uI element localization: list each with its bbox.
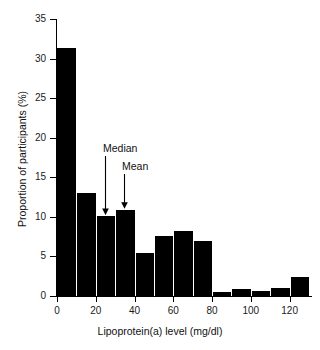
histogram-chart: Proportion of participants (%) 051015202…: [0, 0, 320, 350]
histogram-bar: [193, 241, 212, 296]
x-tick: [173, 297, 174, 302]
y-tick: 10: [50, 217, 56, 218]
y-axis-title: Proportion of participants (%): [16, 39, 28, 279]
histogram-bar: [212, 292, 231, 296]
histogram-bar: [231, 289, 250, 296]
histogram-bar: [173, 231, 192, 296]
y-tick: 15: [50, 177, 56, 178]
x-tick: [96, 297, 97, 302]
x-tick: [57, 297, 58, 302]
y-tick-label: 20: [35, 131, 46, 144]
histogram-bar: [115, 210, 134, 296]
y-tick: 35: [50, 19, 56, 20]
y-tick: 0: [50, 296, 56, 297]
x-axis-line: [50, 296, 312, 297]
y-tick-label: 0: [40, 289, 46, 302]
x-tick-label: 20: [90, 304, 101, 317]
histogram-bar: [57, 48, 76, 296]
histogram-bar: [290, 277, 309, 296]
y-tick-label: 30: [35, 52, 46, 65]
x-tick-label: 120: [281, 304, 298, 317]
histogram-bar: [76, 193, 95, 296]
x-tick-label: 40: [129, 304, 140, 317]
y-tick-label: 10: [35, 210, 46, 223]
x-tick: [135, 297, 136, 302]
x-tick: [251, 297, 252, 302]
y-tick-label: 5: [40, 249, 46, 262]
annotation-arrow-mean-icon: [120, 174, 129, 209]
histogram-bar: [251, 291, 270, 296]
x-tick-label: 80: [207, 304, 218, 317]
y-tick: 25: [50, 98, 56, 99]
histogram-bar: [270, 288, 289, 296]
plot-area: [57, 19, 309, 296]
x-tick: [290, 297, 291, 302]
x-axis-title: Lipoprotein(a) level (mg/dl): [0, 325, 320, 337]
x-tick-label: 60: [168, 304, 179, 317]
y-tick: 5: [50, 256, 56, 257]
x-tick: [212, 297, 213, 302]
x-tick-label: 0: [54, 304, 60, 317]
y-tick-label: 15: [35, 170, 46, 183]
histogram-bar: [135, 253, 154, 296]
y-tick: 20: [50, 138, 56, 139]
histogram-bar: [154, 236, 173, 296]
y-tick: 30: [50, 59, 56, 60]
annotation-label-mean: Mean: [122, 160, 148, 172]
annotation-label-median: Median: [103, 142, 137, 154]
x-tick-label: 100: [243, 304, 260, 317]
annotation-arrow-median-icon: [101, 156, 110, 215]
histogram-bar: [96, 216, 115, 296]
y-tick-label: 35: [35, 12, 46, 25]
y-tick-label: 25: [35, 91, 46, 104]
